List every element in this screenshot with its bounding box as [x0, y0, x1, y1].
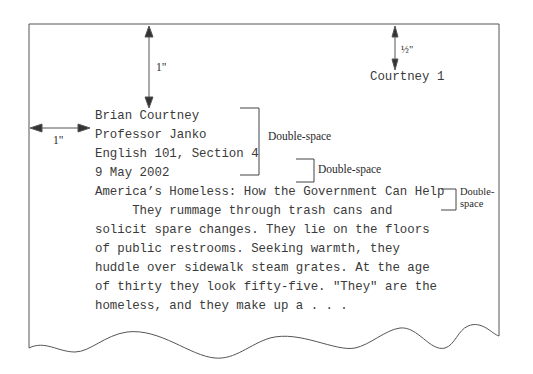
left-margin-label: 1": [53, 134, 63, 146]
top-margin-arrow-icon: [145, 26, 153, 108]
body-line: of thirty they look fifty-five. "They" a…: [95, 278, 437, 297]
heading-line-name: Brian Courtney: [95, 107, 199, 126]
header-margin-arrow-icon: [392, 26, 398, 70]
double-space-title-label: Double-space: [318, 163, 381, 175]
title-gap-bracket: [296, 159, 314, 182]
heading-line-date: 9 May 2002: [95, 164, 169, 183]
body-line: They rummage through trash cans and: [95, 202, 392, 221]
double-space-body-label-1: Double-: [460, 186, 494, 197]
paper-title: America’s Homeless: How the Government C…: [95, 183, 444, 202]
body-line: solicit spare changes. They lie on the f…: [95, 221, 430, 240]
page-header: Courtney 1: [370, 68, 444, 87]
top-margin-label: 1": [156, 61, 166, 73]
header-margin-label: ½": [401, 44, 413, 55]
heading-bracket: [240, 108, 259, 175]
double-space-heading-label: Double-space: [268, 130, 331, 142]
body-line: huddle over sidewalk steam grates. At th…: [95, 259, 430, 278]
body-line: of public restrooms. Seeking warmth, the…: [95, 240, 400, 259]
left-margin-arrow-icon: [30, 124, 90, 132]
heading-line-course: English 101, Section 4: [95, 145, 259, 164]
body-line: homeless, and they make up a . . .: [95, 297, 348, 316]
heading-line-professor: Professor Janko: [95, 126, 207, 145]
double-space-body-label-2: space: [460, 198, 483, 209]
